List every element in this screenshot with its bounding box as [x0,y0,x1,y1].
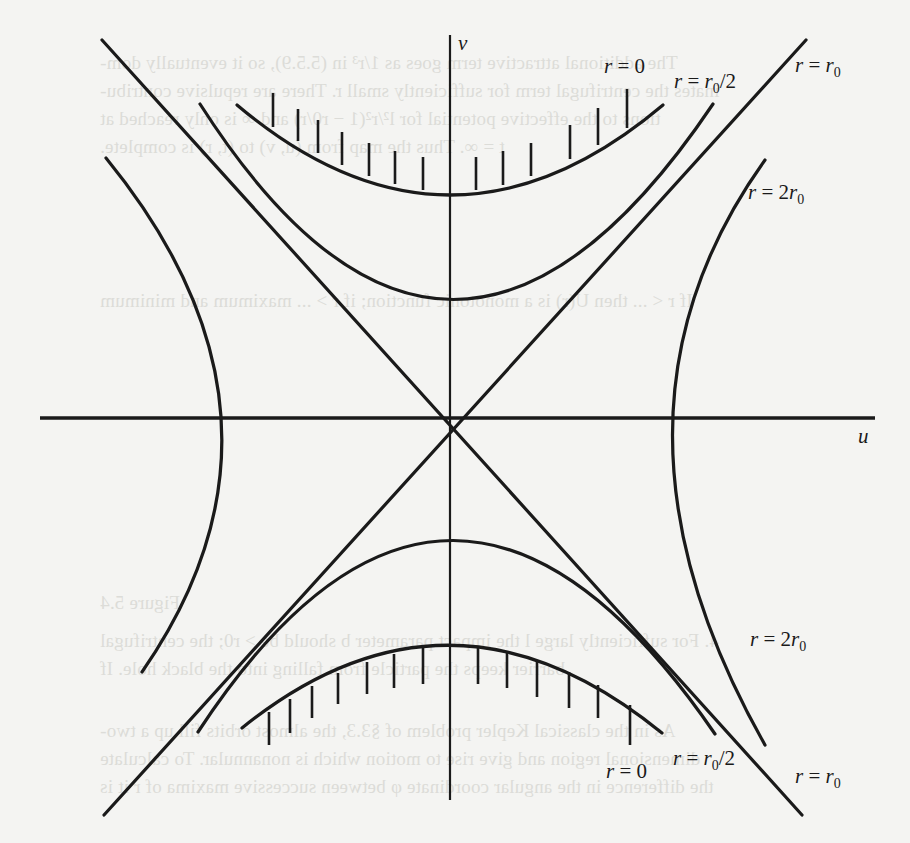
label-lower-exterior: r = 2r0 [750,627,806,654]
horizon-line-descending [102,40,802,815]
label-upper-exterior: r = 2r0 [748,180,804,207]
upper-half-radius-curve [200,104,713,300]
kruskal-diagram: v u r = 0 r = r0/2 r = r0 r = 2r0 r [0,0,910,843]
svg-text:r = r0/2: r = r0/2 [674,69,736,96]
svg-text:r = r0: r = r0 [795,764,841,791]
svg-text:r = 0: r = 0 [606,759,647,783]
svg-text:r = r0: r = r0 [795,53,841,80]
label-upper-half-radius: r = r0/2 [674,69,736,96]
label-lower-half-radius: r = r0/2 [673,746,735,773]
label-upper-singularity: r = 0 [604,54,645,78]
v-axis-label: v [458,31,468,55]
svg-text:r = r0/2: r = r0/2 [673,746,735,773]
right-exterior-curve [673,160,766,745]
label-lower-singularity: r = 0 [606,759,647,783]
horizon-line-ascending [104,40,806,815]
left-exterior-curve [106,158,222,672]
svg-text:r = 2r0: r = 2r0 [750,627,806,654]
label-upper-horizon: r = r0 [795,53,841,80]
svg-text:r = 2r0: r = 2r0 [748,180,804,207]
textbook-page: The additional attractive term goes as 1… [0,0,910,843]
u-axis-label: u [858,424,869,448]
label-lower-horizon: r = r0 [795,764,841,791]
svg-text:r = 0: r = 0 [604,54,645,78]
